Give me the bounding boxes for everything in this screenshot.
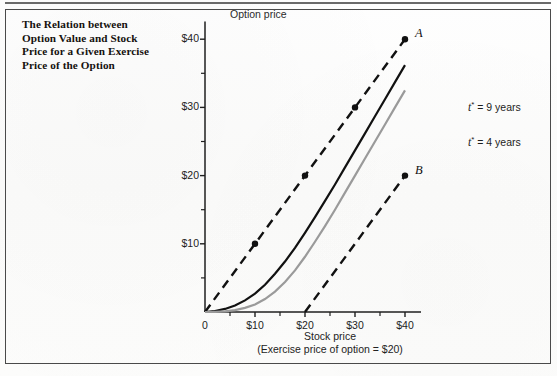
series-option-value-4-years [205,90,405,312]
x-axis-tick-label: $30 [346,319,364,331]
series-marker-point [302,172,308,178]
series-label-text: = 4 years [474,136,520,148]
y-axis-title: Option price [230,8,287,20]
series-label-text: = 9 years [474,101,520,113]
series-marker-point [402,172,408,178]
series-label-option-value-4-years: t* = 4 years [468,136,521,148]
x-axis-origin-label: 0 [202,319,208,331]
series-marker-point [252,241,258,247]
series-option-value-9-years [205,65,405,312]
y-axis-tick-label: $40 [155,32,199,44]
series-label-option-value-9-years: t* = 9 years [468,101,521,113]
y-axis-tick-label: $30 [155,100,199,112]
chart-plot-area [0,0,557,376]
series-lower-bound-line-B [305,176,405,312]
x-axis-title: Stock price [257,330,403,343]
point-label-b: B [415,163,423,178]
point-label-a: A [415,26,423,41]
y-axis-tick-label: $20 [155,169,199,181]
x-axis-tick-label: $10 [246,319,264,331]
x-axis-tick-label: $20 [296,319,314,331]
x-axis-tick-label: $40 [396,319,414,331]
y-axis-tick-label: $10 [155,237,199,249]
figure-container: The Relation between Option Value and St… [0,0,557,376]
series-marker-point [352,104,358,110]
x-axis-note: (Exercise price of option = $20) [257,343,403,356]
series-marker-point [402,36,408,42]
x-axis-title-block: Stock price (Exercise price of option = … [257,330,403,356]
